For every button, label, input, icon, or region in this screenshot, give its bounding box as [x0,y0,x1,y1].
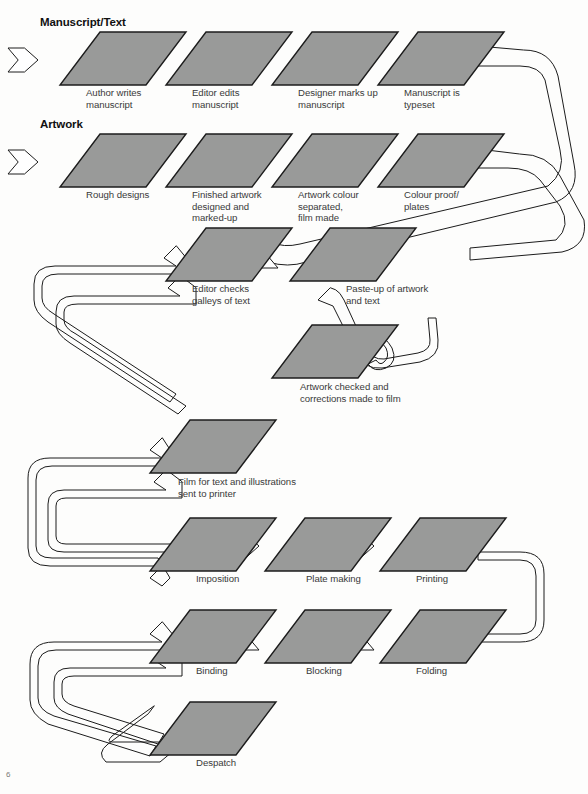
connector-film-to-imposition [28,438,170,586]
flowchart-canvas [0,0,588,794]
node-printing[interactable] [380,518,506,571]
caption-printing: Printing [416,573,448,585]
heading-manuscript-text: Manuscript/Text [40,16,126,28]
flowchart-page: Manuscript/TextArtwork Author writes man… [0,0,588,794]
caption-artwork-separated: Artwork colour separated, film made [298,189,359,224]
node-binding[interactable] [150,610,276,663]
node-editor-edits[interactable] [166,32,292,85]
caption-colour-proof: Colour proof/ plates [404,189,459,212]
connector-binding-to-despatch [30,622,172,756]
node-despatch[interactable] [150,702,276,755]
caption-imposition: Imposition [196,573,239,585]
arrow-to-author [8,48,38,72]
node-paste-up[interactable] [290,228,416,281]
node-blocking[interactable] [265,610,391,663]
arrow-to-rough [8,150,38,174]
page-folio: 6 [6,770,10,779]
connector-galleys-to-artwork [34,246,186,402]
node-folding[interactable] [380,610,506,663]
node-colour-proof[interactable] [378,134,504,187]
node-editor-checks[interactable] [166,228,292,281]
connector-film-to-imposition-inner [48,470,182,552]
heading-artwork: Artwork [40,118,83,130]
caption-blocking: Blocking [306,665,342,677]
node-rough-designs[interactable] [60,134,186,187]
caption-manuscript-typeset: Manuscript is typeset [404,87,460,110]
node-author-writes[interactable] [60,32,186,85]
caption-author-writes: Author writes manuscript [86,87,141,110]
caption-editor-checks: Editor checks galleys of text [192,283,250,306]
caption-plate-making: Plate making [306,573,361,585]
node-designer-marks-up[interactable] [272,32,398,85]
caption-despatch: Despatch [196,757,236,769]
caption-binding: Binding [196,665,228,677]
caption-finished-artwork: Finished artwork designed and marked-up [192,189,262,224]
caption-artwork-checked: Artwork checked and corrections made to … [300,381,401,404]
caption-film-sent: Film for text and illustrations sent to … [178,476,296,499]
caption-designer-marks-up: Designer marks up manuscript [298,87,378,110]
caption-paste-up: Paste-up of artwork and text [346,283,428,306]
node-film-sent[interactable] [150,420,276,473]
node-finished-artwork[interactable] [166,134,292,187]
caption-editor-edits: Editor edits manuscript [192,87,239,110]
node-artwork-separated[interactable] [272,134,398,187]
caption-rough-designs: Rough designs [86,189,149,201]
caption-folding: Folding [416,665,447,677]
node-manuscript-typeset[interactable] [378,32,504,85]
